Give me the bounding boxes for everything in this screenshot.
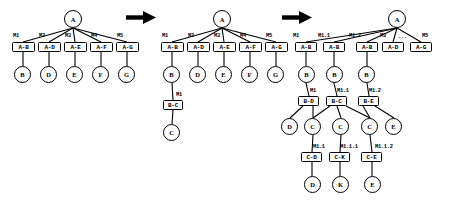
edge-label: M1.2 (369, 88, 381, 94)
tree-root-node: A (388, 10, 406, 28)
edge-label: M2 (188, 33, 194, 39)
tree-edge (222, 28, 224, 42)
edge-label: M1.1.1 (340, 144, 358, 150)
tree-edge (334, 28, 397, 42)
tree-box-node: C-D (301, 152, 322, 162)
edge-layer (0, 0, 465, 207)
tree-box-node: C-E (361, 152, 382, 162)
tree-edge (313, 106, 330, 118)
tree-edge (290, 106, 303, 118)
tree-circle-node: B (358, 66, 375, 83)
edge-label: M1 (13, 33, 19, 39)
edge-label: M1.1 (318, 33, 330, 39)
tree-box-node: A-E (213, 42, 236, 52)
tree-circle-node: E (66, 66, 83, 83)
edge-label: M4 (91, 33, 97, 39)
tree-circle-node: B (298, 66, 315, 83)
tree-circle-node: C (361, 118, 378, 135)
tree-box-node: A-B (356, 42, 378, 52)
tree-circle-node: F (92, 66, 109, 83)
edge-label: M5 (422, 33, 428, 39)
edge-label: M1.1 (313, 144, 325, 150)
tree-circle-node: D (281, 118, 298, 135)
tree-circle-node: B (326, 66, 343, 83)
tree-box-node: A-G (116, 42, 139, 52)
tree-circle-node: B (14, 66, 31, 83)
right-arrow (282, 10, 312, 23)
tree-circle-node: C (332, 118, 349, 135)
tree-circle-node: F (241, 66, 258, 83)
edge-label: M5 (266, 33, 272, 39)
tree-box-node: A-G (265, 42, 288, 52)
edge-label: M3 (65, 33, 71, 39)
tree-box-node: C-K (329, 152, 350, 162)
edge-label: ... (398, 34, 407, 40)
tree-circle-node: C (304, 118, 321, 135)
tree-circle-node: K (332, 176, 349, 193)
edge-label: M1.1.2 (375, 144, 393, 150)
tree-circle-node: D (40, 66, 57, 83)
tree-edge (306, 83, 309, 96)
tree-box-node: A-D (382, 42, 404, 52)
edge-label: M3 (214, 33, 220, 39)
tree-box-node: B-D (298, 96, 319, 106)
edge-label: M1 (310, 88, 316, 94)
tree-box-node: A-D (38, 42, 61, 52)
tree-box-node: B-C (326, 96, 347, 106)
tree-box-node: A-E (64, 42, 87, 52)
edge-label: M2 (39, 33, 45, 39)
tree-circle-node: C (163, 124, 180, 141)
edge-label: M1 (293, 33, 299, 39)
tree-circle-node: D (189, 66, 206, 83)
tree-box-node: A-B (12, 42, 35, 52)
tree-edge (337, 106, 341, 118)
tree-box-node: A-G (410, 42, 432, 52)
tree-box-node: A-B (161, 42, 184, 52)
tree-box-node: A-F (239, 42, 262, 52)
diagram-canvas: AA-BA-DA-EA-FA-GBDEFGM1M2M3M4M5AA-BA-DA-… (0, 0, 465, 207)
tree-root-node: A (213, 10, 231, 28)
tree-box-node: B-E (358, 96, 379, 106)
tree-circle-node: B (163, 66, 180, 83)
edge-label: M1 (162, 33, 168, 39)
tree-box-node: B-C (163, 100, 183, 110)
tree-edge (172, 83, 173, 100)
tree-edge (172, 110, 173, 124)
tree-edge (73, 28, 75, 42)
right-arrow (126, 10, 156, 23)
tree-root-node: A (64, 10, 82, 28)
tree-box-node: A-B (295, 42, 317, 52)
tree-circle-node: G (267, 66, 284, 83)
edge-label: M5 (117, 33, 123, 39)
tree-circle-node: E (385, 118, 402, 135)
edge-label: M1.2 (349, 33, 361, 39)
edge-label: M1.1 (337, 88, 349, 94)
tree-box-node: A-B (323, 42, 345, 52)
tree-circle-node: D (304, 176, 321, 193)
tree-circle-node: E (364, 176, 381, 193)
tree-edge (375, 106, 394, 118)
tree-edge (370, 135, 372, 152)
edge-label: M3 (380, 33, 386, 39)
tree-box-node: A-D (187, 42, 210, 52)
tree-circle-node: G (118, 66, 135, 83)
tree-circle-node: E (215, 66, 232, 83)
edge-label: M1 (176, 92, 182, 98)
edge-label: M4 (240, 33, 246, 39)
tree-box-node: A-F (90, 42, 113, 52)
